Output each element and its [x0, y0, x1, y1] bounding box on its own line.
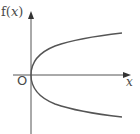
- x-axis-label: x: [126, 76, 133, 88]
- graph-figure: f(x) x O: [0, 0, 140, 134]
- graph-canvas: [0, 0, 140, 134]
- y-axis-label: f(x): [1, 5, 23, 18]
- y-axis-arrow-icon: [28, 11, 34, 19]
- curve-lower-branch: [31, 75, 122, 117]
- origin-label: O: [17, 74, 27, 87]
- curve-upper-branch: [31, 33, 122, 75]
